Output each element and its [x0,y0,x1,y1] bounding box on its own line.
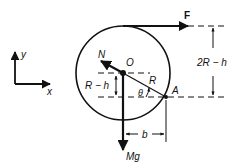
y-axis-label: y [20,49,27,60]
theta-arc [146,88,149,97]
dim-2R-minus-h-label: 2R − h [196,57,227,68]
radius-R-label: R [149,75,156,86]
contact-point-A [164,95,168,99]
theta-label: θ [138,88,143,98]
dimension-R-minus-h: R − h [85,76,116,95]
dim-b-label: b [142,129,148,140]
dim-R-minus-h-label: R − h [85,80,110,91]
x-axis-label: x [46,86,53,97]
force-F-arrow: F [123,10,190,26]
coordinate-axes: y x [15,49,53,97]
force-F-label: F [184,10,190,21]
center-O-label: O [126,57,134,68]
dimension-b: b [126,100,166,142]
normal-N-label: N [98,49,106,60]
dimension-2R-minus-h: 2R − h [196,28,227,95]
normal-force-N-arrow: N [98,49,123,73]
contact-A-label: A [171,85,179,96]
weight-Mg-label: Mg [126,151,140,162]
free-body-diagram: y x F 2R − h R θ A O N R − h Mg [0,0,242,167]
radius-line [123,73,166,97]
